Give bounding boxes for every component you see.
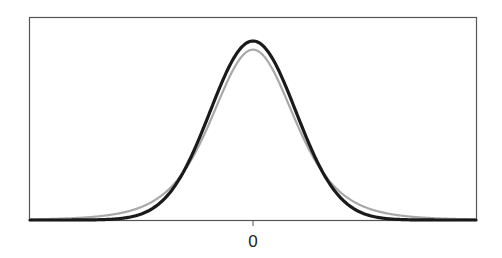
t-distribution-curve	[30, 50, 476, 220]
x-tick-label-zero: 0	[248, 232, 257, 251]
plot-frame	[30, 18, 477, 221]
normal-distribution-curve	[30, 41, 476, 220]
chart-canvas: 0	[0, 0, 502, 258]
